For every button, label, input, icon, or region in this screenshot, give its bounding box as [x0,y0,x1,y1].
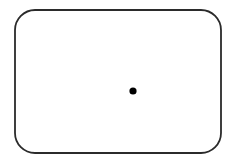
figure-svg [0,0,237,161]
center-dot [129,87,136,94]
drawing-canvas [0,0,237,161]
boundary-rectangle [15,10,221,153]
